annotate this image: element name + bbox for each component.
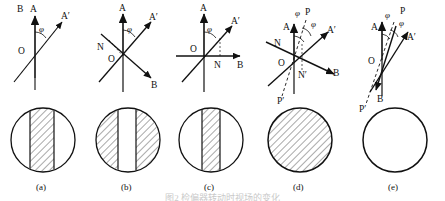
label-n: N <box>97 42 104 52</box>
axis-a-prime <box>182 26 232 82</box>
label-p: P <box>400 6 405 16</box>
label-p-prime: P′ <box>359 104 366 114</box>
optics-figure: B A A′ O φ (a) <box>0 0 445 201</box>
label-origin: O <box>18 46 25 56</box>
label-a-prime: A′ <box>327 25 336 35</box>
label-phi-2: φ <box>311 19 316 29</box>
label-a-prime: A′ <box>61 11 70 21</box>
label-a: A <box>119 3 126 13</box>
label-phi-1: φ <box>295 8 300 18</box>
panel-d: φ P φ A A′ N O N′ B P′ (d) <box>254 0 343 201</box>
panel-e-svg: A φ P φ A′ O B P′ (e) <box>350 0 445 201</box>
label-phi-2: φ <box>399 18 404 28</box>
panel-d-svg: φ P φ A A′ N O N′ B P′ (d) <box>254 0 354 201</box>
panel-a: B A A′ O φ (a) <box>0 0 89 201</box>
field-hatch-a <box>30 106 54 174</box>
axis-a-prime <box>99 22 151 82</box>
label-n: N <box>274 38 281 48</box>
label-phi: φ <box>127 24 132 34</box>
label-n-prime: N′ <box>298 70 307 80</box>
label-n: N <box>214 60 221 70</box>
panel-label-b: (b) <box>121 182 132 192</box>
angle-arc-phi-2 <box>302 28 311 36</box>
label-a: A <box>283 22 290 32</box>
panel-label-c: (c) <box>204 182 214 192</box>
label-p: P <box>305 7 310 17</box>
label-b: B <box>333 68 339 78</box>
label-phi: φ <box>39 24 44 34</box>
label-phi: φ <box>207 24 212 34</box>
panel-b: A A′ N O B φ (b) <box>85 0 174 201</box>
field-circle-d <box>268 108 332 172</box>
field-circle-e <box>363 108 427 172</box>
panel-c-svg: A A′ O N B φ (c) <box>168 0 257 201</box>
panel-e: A φ P φ A′ O B P′ (e) <box>350 0 439 201</box>
label-origin: O <box>278 58 285 68</box>
label-a: A <box>371 22 378 32</box>
label-phi-1: φ <box>385 10 390 20</box>
field-hatch-c <box>202 108 220 172</box>
label-origin: O <box>368 56 375 66</box>
panel-a-svg: B A A′ O φ (a) <box>0 0 89 201</box>
label-p-prime: P′ <box>277 96 284 106</box>
axis-a-prime <box>370 32 408 92</box>
label-a-prime: A′ <box>407 32 416 42</box>
label-a-prime: A′ <box>231 16 240 26</box>
label-origin: O <box>108 54 115 64</box>
panel-b-svg: A A′ N O B φ (b) <box>85 0 174 201</box>
label-a: A <box>200 3 207 13</box>
figure-caption: 图2 检偏器转动时视场的变化 <box>0 192 445 201</box>
figure-caption-strip: 图2 检偏器转动时视场的变化 <box>0 192 445 201</box>
label-b: B <box>17 4 23 14</box>
label-a-prime: A′ <box>149 12 158 22</box>
panel-label-a: (a) <box>36 182 46 192</box>
label-b: B <box>377 94 383 104</box>
label-b: B <box>237 60 243 70</box>
panel-label-d: (d) <box>293 182 304 192</box>
label-a: A <box>30 4 37 14</box>
panel-label-e: (e) <box>388 182 398 192</box>
label-b: B <box>151 80 157 90</box>
label-origin: O <box>190 44 197 54</box>
panel-c: A A′ O N B φ (c) <box>168 0 257 201</box>
